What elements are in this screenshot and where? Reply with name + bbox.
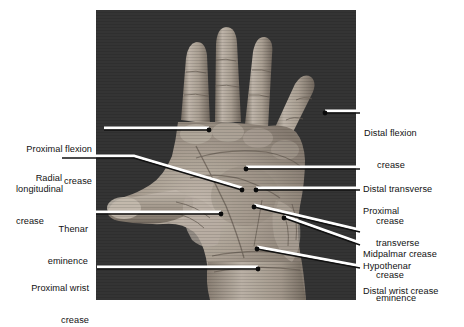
label-line: Distal wrist crease	[363, 286, 439, 297]
label-line: longitudinal	[16, 184, 100, 195]
label-line: Thenar	[0, 224, 88, 235]
label-proximal-wrist-crease: Proximal wrist crease	[0, 262, 89, 327]
label-line: Proximal	[363, 206, 419, 217]
label-distal-wrist-crease: Distal wrist crease	[363, 265, 439, 318]
label-line: Proximal wrist	[0, 283, 89, 294]
label-line: Distal flexion	[364, 128, 417, 139]
label-line: crease	[0, 315, 89, 326]
